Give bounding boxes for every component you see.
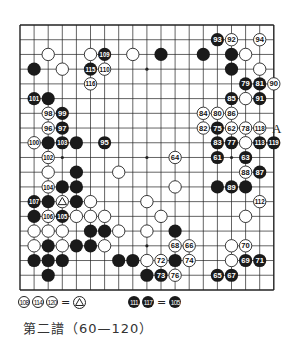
black-stone-107: 107 xyxy=(27,195,40,208)
svg-text:119: 119 xyxy=(269,139,279,146)
legend-black-105: 111 117 = 105 xyxy=(128,294,181,310)
svg-text:91: 91 xyxy=(255,94,264,103)
white-stone-106: 106 xyxy=(42,210,54,222)
white-stone-64: 64 xyxy=(169,151,181,163)
svg-text:66: 66 xyxy=(185,241,193,250)
point-label-a: A xyxy=(272,121,282,136)
black-stone xyxy=(169,254,182,267)
black-stone-95: 95 xyxy=(98,136,111,149)
star-point xyxy=(145,244,148,247)
white-stone xyxy=(239,210,251,222)
white-stone xyxy=(84,195,96,207)
white-stone-68: 68 xyxy=(169,240,181,252)
svg-text:112: 112 xyxy=(255,198,265,205)
black-stone xyxy=(98,224,111,237)
black-stone-79: 79 xyxy=(239,77,252,90)
black-stone xyxy=(70,166,83,179)
white-stone xyxy=(84,48,96,60)
black-stone xyxy=(70,180,83,193)
black-stone xyxy=(27,63,40,76)
equals-sign: = xyxy=(157,296,166,309)
white-stone xyxy=(127,48,139,60)
svg-text:113: 113 xyxy=(255,139,265,146)
svg-text:74: 74 xyxy=(185,256,194,265)
black-stone-75: 75 xyxy=(211,121,224,134)
svg-text:86: 86 xyxy=(227,109,235,118)
star-point xyxy=(230,156,233,159)
svg-text:90: 90 xyxy=(270,79,278,88)
black-stone xyxy=(225,48,238,61)
white-stone xyxy=(141,195,153,207)
black-stone-65: 65 xyxy=(211,269,224,282)
white-stone xyxy=(84,210,96,222)
black-stone xyxy=(112,254,125,267)
svg-text:101: 101 xyxy=(29,95,39,102)
svg-text:67: 67 xyxy=(227,271,235,280)
svg-text:73: 73 xyxy=(157,271,165,280)
white-stone xyxy=(56,225,68,237)
svg-text:81: 81 xyxy=(255,79,264,88)
black-stone-97: 97 xyxy=(56,121,69,134)
black-stone-99: 99 xyxy=(56,107,69,120)
white-stone-70: 70 xyxy=(239,240,251,252)
black-stone-91: 91 xyxy=(253,92,266,105)
white-stone xyxy=(239,92,251,104)
black-stone xyxy=(126,254,139,267)
white-stone-102: 102 xyxy=(42,151,54,163)
black-stone xyxy=(239,180,252,193)
svg-text:103: 103 xyxy=(57,139,67,146)
triangle-stone-icon xyxy=(73,296,86,309)
black-stone-67: 67 xyxy=(225,269,238,282)
svg-text:88: 88 xyxy=(241,168,249,177)
black-stone xyxy=(70,136,83,149)
black-stone xyxy=(84,224,97,237)
white-stone-82: 82 xyxy=(197,122,209,134)
white-stone xyxy=(254,63,266,75)
white-stone xyxy=(239,137,251,149)
white-stone-96: 96 xyxy=(42,122,54,134)
black-stone xyxy=(56,254,69,267)
white-stone-100: 100 xyxy=(28,137,40,149)
white-stone xyxy=(113,225,125,237)
figure-caption: 第二譜（60—120） xyxy=(23,318,153,337)
svg-text:106: 106 xyxy=(43,213,53,220)
white-stone xyxy=(98,240,110,252)
black-stone-105: 105 xyxy=(56,210,69,223)
black-stone xyxy=(42,92,55,105)
svg-text:78: 78 xyxy=(241,124,249,133)
legend-white-triangle: 108 114 120 = xyxy=(18,294,86,310)
black-stone xyxy=(70,195,83,208)
black-stone-77: 77 xyxy=(225,136,238,149)
white-stone-66: 66 xyxy=(183,240,195,252)
go-board: 9293941091151101167981901018591989984808… xyxy=(0,0,299,300)
white-stone xyxy=(28,225,40,237)
svg-text:83: 83 xyxy=(213,138,221,147)
svg-text:105: 105 xyxy=(57,213,67,220)
svg-text:100: 100 xyxy=(29,139,39,146)
svg-text:92: 92 xyxy=(227,35,235,44)
svg-text:97: 97 xyxy=(58,124,66,133)
white-stone xyxy=(239,48,251,60)
white-stone-88: 88 xyxy=(239,166,251,178)
black-stone-63: 63 xyxy=(239,151,252,164)
black-stone xyxy=(84,239,97,252)
equals-sign: = xyxy=(61,296,70,309)
svg-text:75: 75 xyxy=(213,124,222,133)
svg-text:65: 65 xyxy=(213,271,222,280)
black-stone-109: 109 xyxy=(98,48,111,61)
legend-stone-114: 114 xyxy=(32,296,44,308)
black-stone xyxy=(140,269,153,282)
black-stone xyxy=(211,180,224,193)
svg-text:82: 82 xyxy=(199,124,207,133)
black-stone-61: 61 xyxy=(211,151,224,164)
svg-text:69: 69 xyxy=(241,256,249,265)
white-stone xyxy=(113,166,125,178)
white-stone-78: 78 xyxy=(239,122,251,134)
white-stone-62: 62 xyxy=(225,122,237,134)
svg-text:77: 77 xyxy=(227,138,235,147)
black-stone xyxy=(27,254,40,267)
svg-text:104: 104 xyxy=(43,184,53,191)
black-stone xyxy=(56,180,69,193)
black-stone-81: 81 xyxy=(253,77,266,90)
black-stone-115: 115 xyxy=(84,63,97,76)
